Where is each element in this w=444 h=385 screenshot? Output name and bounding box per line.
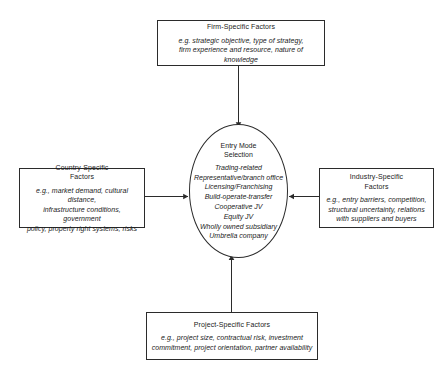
entry-mode-item: Representative/branch office: [194, 173, 283, 183]
firm-box-title: Firm-Specific Factors: [207, 22, 275, 32]
entry-mode-item: Cooperative JV: [194, 202, 283, 212]
project-specific-factors-box: Project-Specific Factors e.g., project s…: [146, 312, 318, 360]
country-box-detail: e.g., market demand, cultural distance, …: [24, 186, 140, 234]
project-box-detail: e.g., project size, contractual risk, in…: [152, 333, 313, 352]
firm-box-detail: e.g. strategic objective, type of strate…: [162, 36, 320, 65]
entry-mode-item: Trading-related: [194, 163, 283, 173]
industry-specific-factors-box: Industry-Specific Factors e.g., entry ba…: [319, 168, 434, 228]
center-node-heading: Entry Mode Selection: [221, 141, 257, 160]
project-box-title: Project-Specific Factors: [194, 320, 270, 330]
country-specific-factors-box: Country-Specific Factors e.g., market de…: [19, 168, 145, 228]
country-box-title: Country-Specific Factors: [56, 163, 109, 182]
entry-mode-item: Umbrella company: [194, 231, 283, 241]
entry-mode-selection-node: Entry Mode Selection Trading-relatedRepr…: [189, 124, 288, 258]
entry-mode-list: Trading-relatedRepresentative/branch off…: [194, 163, 283, 241]
entry-mode-item: Equity JV: [194, 212, 283, 222]
entry-mode-item: Licensing/Franchising: [194, 182, 283, 192]
entry-mode-diagram: Firm-Specific Factors e.g. strategic obj…: [0, 0, 444, 385]
firm-specific-factors-box: Firm-Specific Factors e.g. strategic obj…: [157, 20, 325, 66]
industry-box-detail: e.g., entry barriers, competition, struc…: [326, 195, 426, 224]
entry-mode-item: Wholly owned subsidiary: [194, 222, 283, 232]
industry-box-title: Industry-Specific Factors: [350, 172, 403, 191]
entry-mode-item: Build-operate-transfer: [194, 192, 283, 202]
